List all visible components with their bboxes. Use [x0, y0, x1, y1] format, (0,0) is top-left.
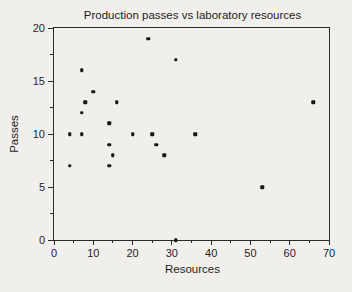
x-major-tick: [289, 240, 290, 245]
x-major-tick: [171, 240, 172, 245]
data-point: [107, 164, 111, 168]
x-tick-label: 60: [284, 247, 296, 259]
data-point: [115, 100, 119, 104]
x-minor-tick: [73, 240, 74, 243]
x-tick-label: 10: [87, 247, 99, 259]
y-minor-tick: [50, 54, 53, 55]
x-tick-label: 0: [51, 247, 57, 259]
y-tick-label: 5: [39, 181, 45, 193]
x-minor-tick: [112, 240, 113, 243]
data-point: [312, 100, 316, 104]
x-minor-tick: [309, 240, 310, 243]
data-point: [68, 164, 72, 168]
x-axis-label: Resources: [54, 263, 331, 275]
y-major-tick: [48, 187, 53, 188]
x-major-tick: [211, 240, 212, 245]
x-major-tick: [93, 240, 94, 245]
data-point: [154, 143, 158, 147]
data-point: [107, 122, 111, 126]
y-major-tick: [48, 28, 53, 29]
x-tick-label: 70: [323, 247, 335, 259]
x-minor-tick: [230, 240, 231, 243]
x-minor-tick: [152, 240, 153, 243]
x-tick-label: 20: [126, 247, 138, 259]
data-point: [260, 185, 264, 189]
y-axis-label: Passes: [8, 115, 20, 153]
x-major-tick: [54, 240, 55, 245]
y-minor-tick: [50, 160, 53, 161]
data-point: [131, 132, 135, 136]
x-major-tick: [132, 240, 133, 245]
x-tick-label: 40: [205, 247, 217, 259]
data-point: [84, 100, 88, 104]
data-point: [80, 69, 84, 73]
x-tick-label: 50: [244, 247, 256, 259]
data-point: [92, 90, 96, 94]
x-major-tick: [250, 240, 251, 245]
data-point: [147, 37, 151, 41]
y-major-tick: [48, 134, 53, 135]
data-point: [174, 58, 178, 62]
data-point: [111, 153, 115, 157]
data-point: [68, 132, 72, 136]
x-tick-label: 30: [166, 247, 178, 259]
y-major-tick: [48, 240, 53, 241]
y-tick-label: 20: [33, 22, 45, 34]
data-point: [162, 153, 166, 157]
y-minor-tick: [50, 107, 53, 108]
chart-title: Production passes vs laboratory resource…: [54, 9, 331, 21]
y-tick-label: 0: [39, 234, 45, 246]
plot-area: 01020304050607005101520: [53, 27, 330, 241]
y-major-tick: [48, 81, 53, 82]
scatter-chart-figure: Production passes vs laboratory resource…: [0, 0, 352, 292]
y-tick-label: 15: [33, 75, 45, 87]
data-point: [80, 111, 84, 115]
data-point: [80, 132, 84, 136]
y-minor-tick: [50, 213, 53, 214]
data-point: [150, 132, 154, 136]
data-point: [194, 132, 198, 136]
data-point: [107, 143, 111, 147]
x-minor-tick: [191, 240, 192, 243]
data-point: [174, 238, 178, 242]
x-major-tick: [329, 240, 330, 245]
y-tick-label: 10: [33, 128, 45, 140]
x-minor-tick: [270, 240, 271, 243]
